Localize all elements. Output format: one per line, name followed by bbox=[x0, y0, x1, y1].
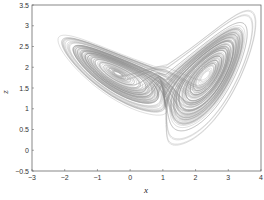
x-tick-label: −2 bbox=[61, 174, 69, 181]
x-tick-label: −3 bbox=[28, 174, 36, 181]
y-tick-label: 2.5 bbox=[19, 43, 29, 50]
y-tick-label: 1 bbox=[25, 105, 29, 112]
y-tick-label: 0.5 bbox=[19, 126, 29, 133]
attractor-plot: −3−2−101234 −0.500.511.522.533.5 x z bbox=[0, 0, 264, 200]
x-tick-label: 3 bbox=[226, 174, 230, 181]
trajectory-series bbox=[58, 10, 256, 145]
plot-frame bbox=[32, 5, 261, 171]
x-tick-label: −1 bbox=[93, 174, 101, 181]
x-tick-label: 1 bbox=[161, 174, 165, 181]
trajectory-path bbox=[58, 10, 256, 145]
y-axis-ticks: −0.500.511.522.533.5 bbox=[15, 2, 34, 175]
x-tick-label: 2 bbox=[194, 174, 198, 181]
y-tick-label: 3.5 bbox=[19, 2, 29, 9]
x-tick-label: 0 bbox=[128, 174, 132, 181]
y-tick-label: 1.5 bbox=[19, 85, 29, 92]
y-tick-label: 3 bbox=[25, 22, 29, 29]
y-tick-label: −0.5 bbox=[15, 168, 29, 175]
y-tick-label: 0 bbox=[25, 147, 29, 154]
y-tick-label: 2 bbox=[25, 64, 29, 71]
y-axis-label: z bbox=[0, 90, 10, 95]
x-axis-label: x bbox=[143, 185, 148, 195]
x-tick-label: 4 bbox=[259, 174, 263, 181]
